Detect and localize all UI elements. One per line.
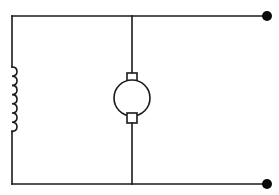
motor-armature-icon	[114, 80, 150, 116]
circuit-diagram	[0, 0, 279, 195]
bottom-terminal-dot-icon	[262, 179, 272, 189]
inductor-coil-icon	[12, 67, 17, 131]
lower-brush-icon	[127, 113, 137, 123]
top-terminal-dot-icon	[262, 11, 272, 21]
circuit-svg	[0, 0, 279, 195]
armature-branch	[114, 16, 150, 184]
field-winding-branch	[12, 16, 17, 184]
